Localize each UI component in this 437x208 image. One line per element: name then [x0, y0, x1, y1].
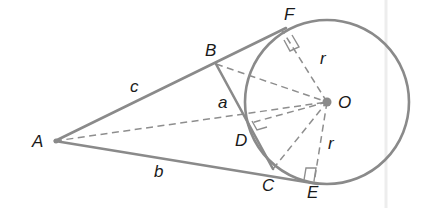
- label-A: A: [31, 132, 43, 151]
- label-B: B: [205, 41, 216, 60]
- right-angle-F: [284, 35, 299, 51]
- label-F: F: [284, 5, 296, 24]
- side-BC: [216, 64, 273, 169]
- label-radius-upper: r: [320, 49, 327, 68]
- excircle-diagram: A B C D E F O c b a r r: [0, 0, 437, 208]
- point-A-marker: [54, 139, 59, 144]
- line-OD-radius: [247, 102, 327, 124]
- label-side-a: a: [218, 93, 227, 112]
- dashed-lines: [55, 30, 327, 183]
- solid-lines: [55, 28, 318, 184]
- tangent-AE: [55, 141, 318, 184]
- label-C: C: [262, 176, 275, 195]
- label-E: E: [307, 183, 319, 202]
- right-angle-E: [304, 168, 316, 181]
- label-D: D: [235, 131, 247, 150]
- label-side-c: c: [130, 77, 139, 96]
- point-O-center: [323, 98, 332, 107]
- label-radius-lower: r: [328, 134, 335, 153]
- label-O: O: [338, 93, 351, 112]
- line-CO: [273, 102, 327, 169]
- label-side-b: b: [154, 162, 163, 181]
